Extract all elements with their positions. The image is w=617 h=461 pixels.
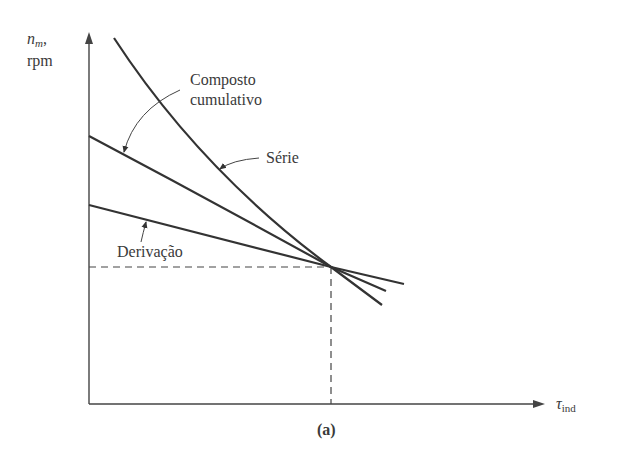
figure-caption: (a) (317, 421, 336, 439)
arrow-composto (124, 90, 180, 152)
y-axis-sub: m (35, 37, 43, 49)
label-derivacao: Derivação (117, 243, 183, 261)
arrow-serie (220, 158, 259, 169)
y-axis-label: nm, (27, 30, 47, 52)
curve-composto-cumulativo (89, 136, 386, 291)
y-axis-comma: , (43, 30, 47, 47)
y-axis (85, 32, 93, 404)
x-axis (89, 400, 545, 408)
y-axis-var: n (27, 30, 35, 47)
x-axis-label: τind (556, 395, 576, 417)
x-axis-sub: ind (562, 402, 576, 414)
rated-point-guides (89, 267, 331, 404)
arrow-derivacao (141, 222, 146, 242)
label-composto-line2: cumulativo (190, 91, 262, 109)
label-serie: Série (266, 149, 299, 167)
chart-canvas (0, 0, 617, 461)
y-axis-unit: rpm (27, 52, 53, 70)
label-composto-line1: Composto (190, 71, 256, 89)
